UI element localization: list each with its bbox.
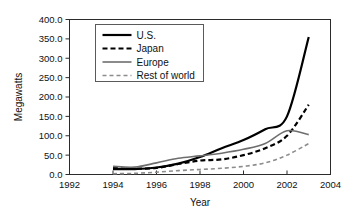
x-tick-label: 1994: [102, 179, 123, 190]
y-tick-label: 150.0: [39, 111, 63, 122]
y-tick-label: 200.0: [39, 91, 63, 102]
y-tick-label: 300.0: [39, 53, 63, 64]
chart-figure: 0.050.0100.0150.0200.0250.0300.0350.0400…: [0, 0, 352, 218]
y-tick-label: 250.0: [39, 72, 63, 83]
legend-label-japan: Japan: [137, 43, 164, 54]
legend-label-europe: Europe: [137, 57, 170, 68]
y-tick-label: 400.0: [39, 14, 63, 25]
x-tick-label: 2000: [233, 179, 254, 190]
x-tick-label: 2004: [320, 179, 341, 190]
y-tick-label: 100.0: [39, 130, 63, 141]
x-tick-label: 1996: [146, 179, 167, 190]
y-tick-label: 350.0: [39, 33, 63, 44]
x-tick-label: 1998: [189, 179, 210, 190]
y-axis-title: Megawatts: [13, 73, 24, 121]
line-chart: 0.050.0100.0150.0200.0250.0300.0350.0400…: [0, 0, 352, 218]
legend-label-rest-of-world: Rest of world: [137, 70, 195, 81]
legend-label-u-s: U.S.: [137, 30, 156, 41]
series-line-europe: [113, 130, 309, 167]
x-tick-label: 1992: [59, 179, 80, 190]
x-axis-title: Year: [190, 197, 211, 208]
y-tick-label: 50.0: [44, 150, 63, 161]
x-tick-label: 2002: [276, 179, 297, 190]
series-line-japan: [113, 105, 309, 169]
